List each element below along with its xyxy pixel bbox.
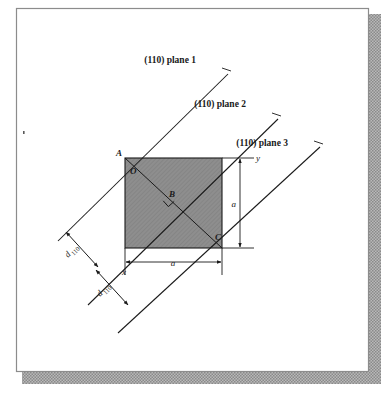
crystal-plane-diagram: (110) plane 1 (110) plane 2 (110) plane … bbox=[0, 0, 391, 394]
figure-container: (110) plane 1 (110) plane 2 (110) plane … bbox=[0, 0, 391, 394]
point-label-A: A bbox=[115, 148, 122, 158]
point-label-O: O bbox=[130, 166, 137, 176]
plane-1-label: (110) plane 1 bbox=[144, 55, 196, 66]
scan-speck bbox=[23, 131, 25, 134]
point-label-B: B bbox=[168, 189, 175, 199]
point-label-C: C bbox=[215, 232, 222, 242]
axis-label-x: x bbox=[121, 267, 126, 277]
dimension-label-a-vertical: a bbox=[232, 199, 237, 209]
axis-label-y: y bbox=[255, 153, 260, 163]
plane-3-label: (110) plane 3 bbox=[236, 138, 288, 149]
dimension-label-a-horizontal: a bbox=[171, 258, 176, 268]
plane-2-label: (110) plane 2 bbox=[194, 99, 246, 110]
